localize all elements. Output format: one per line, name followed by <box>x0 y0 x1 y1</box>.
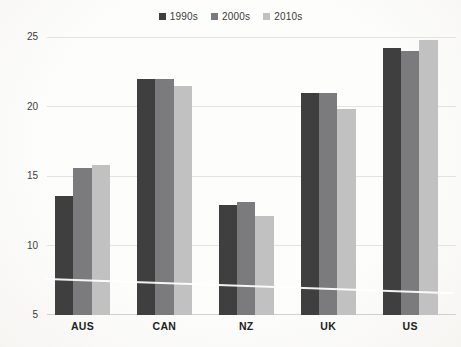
legend-label: 1990s <box>170 11 198 22</box>
bar-can-1990s <box>137 79 155 315</box>
x-axis-label-aus: AUS <box>53 320 113 332</box>
bar-nz-2010s <box>255 216 273 315</box>
bar-uk-2000s <box>319 93 337 315</box>
bar-aus-1990s <box>55 196 73 316</box>
plot-area <box>47 37 456 315</box>
legend-swatch-icon <box>263 13 270 20</box>
bar-us-2010s <box>419 40 437 315</box>
legend-swatch-icon <box>211 13 218 20</box>
bar-group-can <box>137 79 192 315</box>
legend-label: 2010s <box>274 11 302 22</box>
bar-aus-2000s <box>73 168 91 315</box>
bar-us-1990s <box>383 48 401 315</box>
bar-group-us <box>383 40 438 315</box>
chart-legend: 1990s2000s2010s <box>0 9 461 23</box>
bar-aus-2010s <box>92 165 110 315</box>
bar-group-aus <box>55 165 110 315</box>
bar-nz-2000s <box>237 202 255 315</box>
legend-item-2010s: 2010s <box>263 11 302 22</box>
bar-group-nz <box>219 202 274 315</box>
bar-uk-2010s <box>337 109 355 315</box>
legend-swatch-icon <box>159 13 166 20</box>
bar-group-uk <box>301 93 356 315</box>
legend-item-2000s: 2000s <box>211 11 250 22</box>
y-axis-tick-15: 15 <box>8 170 38 181</box>
x-axis-label-us: US <box>380 320 440 332</box>
y-axis-tick-20: 20 <box>8 101 38 112</box>
x-axis-label-nz: NZ <box>216 320 276 332</box>
bar-can-2010s <box>174 86 192 315</box>
x-axis-label-can: CAN <box>134 320 194 332</box>
bar-uk-1990s <box>301 93 319 315</box>
y-axis-tick-25: 25 <box>8 31 38 42</box>
gridline-y-25 <box>47 37 456 38</box>
y-axis-tick-10: 10 <box>8 240 38 251</box>
bar-us-2000s <box>401 51 419 315</box>
legend-label: 2000s <box>222 11 250 22</box>
bar-nz-1990s <box>219 205 237 315</box>
x-axis-label-uk: UK <box>298 320 358 332</box>
y-axis-tick-5: 5 <box>8 309 38 320</box>
legend-item-1990s: 1990s <box>159 11 198 22</box>
bar-can-2000s <box>155 79 173 315</box>
